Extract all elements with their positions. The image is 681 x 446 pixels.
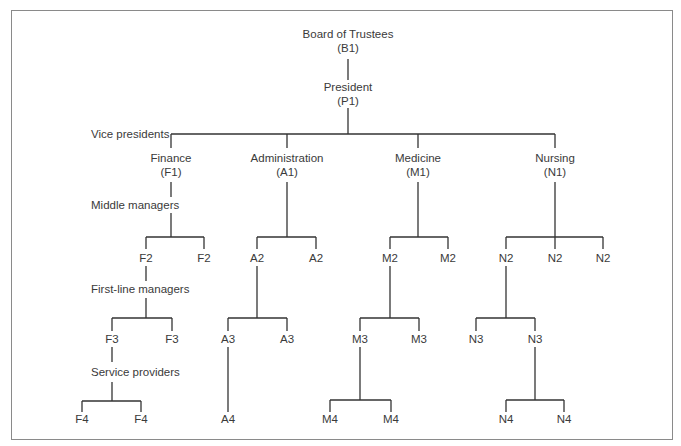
node-a3: A3 — [280, 333, 294, 346]
node-board-code: (B1) — [337, 42, 359, 55]
node-board-name: Board of Trustees — [303, 28, 394, 41]
node-n4: N4 — [557, 413, 572, 426]
node-m3: M3 — [411, 333, 427, 346]
node-administration-code: (A1) — [276, 166, 298, 179]
node-f2: F2 — [197, 252, 210, 265]
node-n2: N2 — [499, 252, 514, 265]
node-medicine-code: (M1) — [406, 166, 430, 179]
connector-lines — [0, 0, 681, 446]
level-label-service-providers: Service providers — [91, 366, 180, 379]
node-m3: M3 — [352, 333, 368, 346]
node-finance-name: Finance — [151, 152, 192, 165]
node-f4: F4 — [75, 413, 88, 426]
node-nursing-name: Nursing — [535, 152, 575, 165]
node-n2: N2 — [596, 252, 611, 265]
node-nursing-code: (N1) — [544, 166, 566, 179]
node-n3: N3 — [469, 333, 484, 346]
node-a4: A4 — [221, 413, 235, 426]
node-n2: N2 — [548, 252, 563, 265]
node-finance-code: (F1) — [160, 166, 181, 179]
node-f3: F3 — [165, 333, 178, 346]
level-label-middle-managers: Middle managers — [91, 199, 179, 212]
level-label-first-line-managers: First-line managers — [91, 283, 189, 296]
node-f2: F2 — [139, 252, 152, 265]
node-n3: N3 — [528, 333, 543, 346]
node-a3: A3 — [221, 333, 235, 346]
node-m2: M2 — [382, 252, 398, 265]
node-f3: F3 — [105, 333, 118, 346]
node-m4: M4 — [322, 413, 338, 426]
node-president-code: (P1) — [337, 95, 359, 108]
node-medicine-name: Medicine — [395, 152, 441, 165]
node-f4: F4 — [134, 413, 147, 426]
node-m2: M2 — [440, 252, 456, 265]
node-m4: M4 — [383, 413, 399, 426]
node-president-name: President — [324, 81, 373, 94]
level-label-vice-presidents: Vice presidents — [91, 128, 169, 141]
node-administration-name: Administration — [251, 152, 324, 165]
node-n4: N4 — [499, 413, 514, 426]
node-a2: A2 — [309, 252, 323, 265]
node-a2: A2 — [250, 252, 264, 265]
